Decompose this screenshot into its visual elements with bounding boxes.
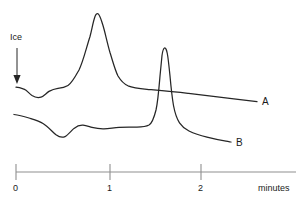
chromatogram-figure: Ice A B 0 1 2 minutes: [0, 0, 306, 199]
x-tick-label-2: 2: [198, 183, 203, 193]
chromatogram-plot: Ice A B 0 1 2 minutes: [0, 0, 306, 199]
x-axis: [16, 164, 296, 180]
x-axis-title: minutes: [258, 183, 290, 193]
trace-label-b: B: [236, 137, 243, 148]
x-tick-label-1: 1: [107, 183, 112, 193]
x-tick-label-0: 0: [13, 183, 18, 193]
down-arrow-icon: [13, 75, 20, 84]
trace-a-path: [16, 14, 257, 102]
trace-label-a: A: [262, 96, 269, 107]
ice-arrow-group: [13, 48, 20, 84]
ice-label: Ice: [10, 32, 22, 42]
